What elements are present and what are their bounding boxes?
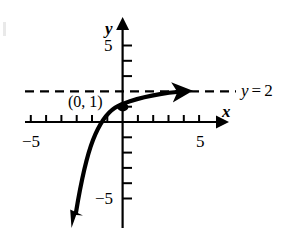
asymptote-label-value: 2 <box>264 81 273 100</box>
asymptote-label-variable: y <box>241 81 249 100</box>
point-marker-0-1 <box>117 103 128 112</box>
asymptote-label-equals: = <box>252 81 262 100</box>
x-axis-label: x <box>222 103 231 120</box>
x-tick-label-5: 5 <box>196 133 205 150</box>
exponential-graph-figure: y x 5 −5 −5 5 (0, 1) y=2 <box>0 0 306 240</box>
x-tick-label-negative-5: −5 <box>22 133 40 150</box>
y-axis-label: y <box>105 20 113 37</box>
y-tick-label-5: 5 <box>104 37 113 54</box>
point-label-0-1: (0, 1) <box>68 94 103 110</box>
y-axis <box>123 28 132 228</box>
y-tick-label-negative-5: −5 <box>95 190 113 207</box>
asymptote-label: y=2 <box>241 82 273 99</box>
graph-canvas <box>0 0 306 240</box>
